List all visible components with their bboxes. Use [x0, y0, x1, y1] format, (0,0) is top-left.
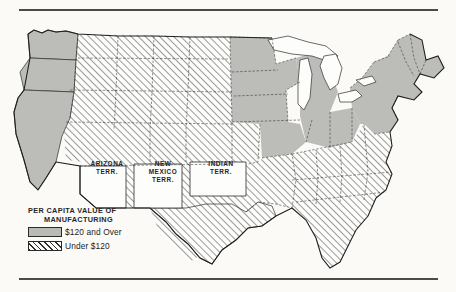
- label-indian-territory: INDIAN TERR.: [196, 160, 246, 176]
- map-legend: PER CAPITA VALUE OF MANUFACTURING $120 a…: [28, 206, 146, 251]
- label-arizona-territory: ARIZONA TERR.: [84, 160, 130, 176]
- legend-title: PER CAPITA VALUE OF MANUFACTURING: [28, 206, 146, 224]
- legend-item-under: Under $120: [28, 240, 146, 251]
- indian-line2: TERR.: [210, 168, 232, 175]
- region-washington: [28, 30, 78, 60]
- region-oregon: [20, 58, 76, 92]
- indian-line1: INDIAN: [208, 160, 233, 167]
- legend-swatch-hatch: [28, 241, 62, 251]
- newmexico-line2: MEXICO: [149, 168, 178, 175]
- legend-label-under: Under $120: [65, 241, 110, 251]
- legend-title-line2: MANUFACTURING: [28, 215, 146, 224]
- label-new-mexico-territory: NEW MEXICO TERR.: [140, 160, 186, 184]
- legend-swatch-solid-gray: [28, 227, 62, 237]
- arizona-line2: TERR.: [96, 168, 118, 175]
- legend-title-line1: PER CAPITA VALUE OF: [28, 206, 146, 215]
- legend-item-over: $120 and Over: [28, 227, 146, 238]
- bottom-rule: [19, 278, 438, 280]
- arizona-line1: ARIZONA: [91, 160, 124, 167]
- legend-label-over: $120 and Over: [65, 227, 122, 237]
- top-rule: [19, 9, 438, 11]
- figure-page: ARIZONA TERR. NEW MEXICO TERR. INDIAN TE…: [0, 0, 456, 292]
- newmexico-line3: TERR.: [152, 176, 174, 183]
- newmexico-line1: NEW: [155, 160, 172, 167]
